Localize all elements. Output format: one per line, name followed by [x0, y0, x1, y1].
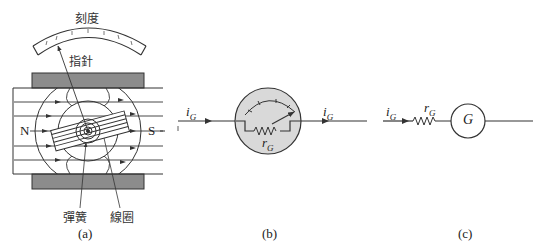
panel-a-galvanometer-mechanism: [13, 28, 178, 208]
current-in-label: iG: [186, 104, 196, 122]
coil: [51, 111, 130, 151]
scale-label: 刻度: [75, 9, 99, 26]
galvanometer-label: G: [463, 112, 473, 128]
scale-arc: [33, 28, 146, 55]
north-pole-label: N: [20, 123, 29, 139]
coil-label: 線圈: [110, 208, 134, 225]
resistance-label-c: rG: [424, 100, 436, 118]
caption-b: (b): [262, 226, 277, 242]
internal-resistance-label: rG: [262, 135, 274, 153]
south-pole-label: S: [148, 123, 155, 139]
pointer-label: 指針: [69, 52, 93, 69]
current-in-label-c: iG: [386, 104, 396, 122]
bottom-pole-piece: [32, 174, 144, 189]
current-out-label: iG: [323, 104, 333, 122]
caption-a: (a): [78, 226, 92, 242]
caption-c: (c): [458, 226, 472, 242]
resistor-zigzag: [413, 117, 451, 125]
spring-label: 彈簧: [63, 208, 87, 225]
panel-c-equivalent-circuit: [383, 104, 533, 138]
top-pole-piece: [32, 73, 144, 88]
